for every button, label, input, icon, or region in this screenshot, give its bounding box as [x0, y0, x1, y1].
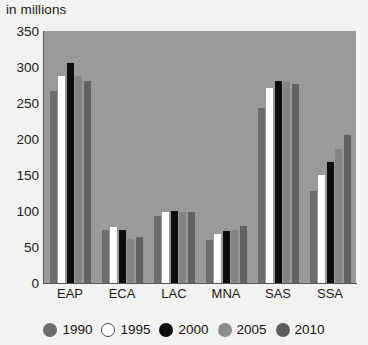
legend-label-2000: 2000 [178, 322, 208, 337]
bar-sas-2005 [283, 82, 290, 283]
bar-eap-1995 [58, 76, 65, 283]
y-axis: 350300250200150100500 [0, 31, 44, 283]
bar-eap-1990 [50, 91, 57, 283]
y-axis-tick-label: 250 [16, 96, 39, 111]
legend-item-1990[interactable]: 1990 [43, 322, 92, 337]
y-axis-tick-label: 50 [24, 240, 39, 255]
bar-mna-2005 [231, 230, 238, 283]
y-axis-tick-label: 0 [31, 276, 39, 291]
bar-lac-1990 [154, 216, 161, 283]
bar-eca-2005 [127, 239, 134, 283]
bar-ssa-1990 [310, 191, 317, 283]
bar-group-lac [154, 31, 195, 283]
bar-eca-1990 [102, 230, 109, 283]
y-axis-tick-label: 350 [16, 24, 39, 39]
bar-eap-2005 [75, 76, 82, 283]
legend-item-2010[interactable]: 2010 [276, 322, 325, 337]
legend-label-1990: 1990 [62, 322, 92, 337]
bar-lac-1995 [162, 212, 169, 283]
bar-group-sas [258, 31, 299, 283]
plot-area [44, 31, 356, 283]
y-axis-tick-label: 300 [16, 60, 39, 75]
legend-swatch-icon-2010 [276, 323, 290, 337]
axis-unit-caption: in millions [6, 2, 66, 17]
y-axis-tick-label: 100 [16, 204, 39, 219]
bar-mna-2010 [240, 226, 247, 283]
bar-eca-2000 [119, 230, 126, 283]
legend-swatch-icon-1995 [101, 323, 115, 337]
bar-eca-2010 [136, 237, 143, 283]
x-axis-label-eca: ECA [109, 286, 136, 301]
legend-item-2005[interactable]: 2005 [218, 322, 267, 337]
bar-ssa-2010 [344, 135, 351, 283]
bar-ssa-1995 [318, 175, 325, 283]
legend-label-2005: 2005 [237, 322, 267, 337]
y-axis-tick-label: 200 [16, 132, 39, 147]
bar-eap-2010 [84, 81, 91, 283]
x-axis-label-ssa: SSA [317, 286, 343, 301]
legend-item-1995[interactable]: 1995 [101, 322, 150, 337]
x-axis-label-sas: SAS [265, 286, 291, 301]
bar-chart: in millions 350300250200150100500 EAPECA… [0, 0, 368, 345]
legend-label-2010: 2010 [295, 322, 325, 337]
bar-lac-2000 [171, 211, 178, 283]
bar-sas-1995 [266, 88, 273, 283]
bar-mna-1995 [214, 234, 221, 283]
bar-eap-2000 [67, 63, 74, 283]
x-axis-labels: EAPECALACMNASASSSA [44, 286, 356, 306]
bar-group-ssa [310, 31, 351, 283]
bar-mna-2000 [223, 231, 230, 283]
x-axis-label-eap: EAP [57, 286, 83, 301]
bar-group-mna [206, 31, 247, 283]
legend-swatch-icon-1990 [43, 323, 57, 337]
bar-lac-2010 [188, 212, 195, 283]
bar-sas-2000 [275, 81, 282, 283]
y-axis-tick-label: 150 [16, 168, 39, 183]
bar-ssa-2005 [335, 149, 342, 283]
bar-mna-1990 [206, 240, 213, 283]
legend-label-1995: 1995 [120, 322, 150, 337]
bar-sas-2010 [292, 84, 299, 283]
bar-group-eap [50, 31, 91, 283]
x-axis-label-lac: LAC [161, 286, 186, 301]
bar-group-eca [102, 31, 143, 283]
x-axis-label-mna: MNA [212, 286, 241, 301]
chart-legend: 19901995200020052010 [0, 316, 368, 343]
bar-lac-2005 [179, 212, 186, 283]
bar-ssa-2000 [327, 162, 334, 283]
legend-swatch-icon-2000 [159, 323, 173, 337]
bar-sas-1990 [258, 108, 265, 283]
legend-swatch-icon-2005 [218, 323, 232, 337]
x-axis-line [43, 283, 357, 284]
legend-item-2000[interactable]: 2000 [159, 322, 208, 337]
bar-eca-1995 [110, 227, 117, 283]
